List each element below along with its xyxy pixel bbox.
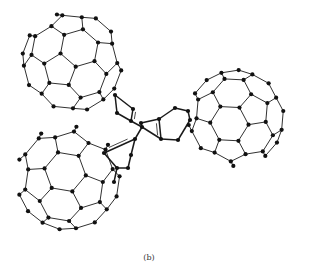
cage-right-atom (222, 77, 226, 81)
cage-top-left-atom (79, 95, 83, 99)
linker-atom (159, 137, 163, 141)
cage-top-left-bond (51, 15, 62, 26)
cage-top-left-atom (92, 59, 96, 63)
cage-top-left-bond (114, 70, 121, 88)
cage-right-atom (274, 96, 278, 100)
cage-bottom-left-atom (39, 131, 43, 135)
cage-bottom-left-bond (69, 208, 81, 221)
cage-bottom-left-bond (55, 132, 74, 138)
cage-right-bond (246, 151, 263, 154)
cage-top-left-bond (44, 53, 60, 63)
cage-right-bond (192, 131, 201, 148)
cage-right-bond (266, 122, 273, 135)
linker-atom (131, 107, 135, 111)
cage-right-atom (208, 121, 212, 125)
cage-right-atom (194, 116, 198, 120)
cage-right-bond (244, 80, 251, 94)
cage-bottom-left-atom (74, 226, 78, 230)
linker-atom (188, 118, 192, 122)
cage-bottom-left-atom (101, 180, 105, 184)
cage-top-left-atom (29, 53, 33, 57)
linker-atom (176, 138, 180, 142)
cage-right-atom (218, 104, 222, 108)
cage-bottom-left-atom (114, 194, 118, 198)
cage-bottom-left-atom (72, 129, 76, 133)
cage-top-left-atom (42, 61, 46, 65)
linker-atom (102, 151, 106, 155)
cage-bottom-left-bond (117, 176, 120, 196)
linker-double-bond (156, 123, 157, 135)
cage-bottom-left-bond (103, 169, 113, 182)
cage-top-left-bond (73, 108, 87, 109)
cage-right-atom (265, 101, 269, 105)
cage-top-left-atom (22, 64, 26, 68)
cage-right-bond (197, 118, 211, 122)
cage-bottom-left-atom (117, 174, 121, 178)
cage-right-atom (267, 81, 271, 85)
cage-bottom-left-bond (55, 137, 58, 152)
cage-top-left-atom (112, 87, 116, 91)
cage-right-atom (229, 159, 233, 163)
linker-atom (173, 106, 177, 110)
cage-right-bond (225, 79, 244, 80)
cage-top-left-bond (35, 26, 51, 36)
cage-right-atom (196, 97, 200, 101)
cage-top-left-atom (119, 68, 123, 72)
cage-bottom-left-bond (25, 190, 40, 201)
cage-bottom-left-bond (28, 168, 44, 169)
cage-top-left-atom (40, 92, 44, 96)
cage-top-left-bond (61, 53, 76, 66)
cage-bottom-left-atom (86, 141, 90, 145)
cage-right-bond (238, 141, 245, 154)
cage-bottom-left-atom (77, 154, 81, 158)
cage-right-bond (238, 125, 248, 141)
linker-bond (161, 139, 178, 140)
cage-right-bond (210, 107, 220, 123)
cage-right-atom (243, 152, 247, 156)
cage-bottom-left-bond (60, 228, 76, 229)
cage-bottom-left-bond (72, 191, 81, 208)
cage-top-left-bond (69, 85, 81, 98)
cage-bottom-left-bond (45, 152, 58, 168)
cage-right-bond (197, 100, 199, 119)
cage-top-left-bond (106, 63, 117, 74)
cage-right-atom (264, 120, 268, 124)
cage-top-left-bond (103, 89, 114, 100)
cage-right-bond (210, 123, 219, 140)
cage-right-bond (249, 122, 266, 125)
cage-bottom-left-bond (40, 188, 52, 201)
cage-bottom-left-atom (38, 199, 42, 203)
cage-top-left-atom (51, 104, 55, 108)
cage-right-atom (237, 68, 241, 72)
linker-bond (104, 153, 117, 168)
cage-top-left-bond (69, 67, 76, 85)
cage-right-bond (266, 103, 268, 122)
cage-right-atom (211, 90, 215, 94)
linker-atom (113, 93, 117, 97)
cage-bottom-left-bond (28, 211, 43, 222)
cage-right-bond (195, 80, 207, 93)
cage-right-bond (239, 108, 248, 125)
cage-bottom-left-bond (107, 196, 117, 209)
cage-top-left-bond (96, 18, 111, 31)
cage-right-bond (239, 70, 253, 74)
cage-top-left-atom (49, 24, 53, 28)
cage-right-bond (251, 94, 267, 103)
cage-top-left-bond (32, 55, 45, 64)
linker-atom (140, 125, 144, 129)
cage-bottom-left-atom (50, 186, 54, 190)
cage-bottom-left-atom (26, 209, 30, 213)
cage-right-atom (280, 128, 284, 132)
cage-bottom-left-atom (67, 219, 71, 223)
cage-bottom-left-atom (79, 206, 83, 210)
cage-right-bond (201, 148, 215, 152)
linker-bond (115, 95, 117, 113)
cage-right-bond (276, 98, 283, 111)
cage-top-left-bond (51, 26, 64, 35)
cage-bottom-left-bond (45, 168, 52, 188)
cage-top-left-atom (47, 81, 51, 85)
cage-right-atom (249, 92, 253, 96)
cage-top-left-bond (87, 99, 103, 109)
linker-atom (157, 117, 161, 121)
cage-top-left-atom (58, 51, 62, 55)
